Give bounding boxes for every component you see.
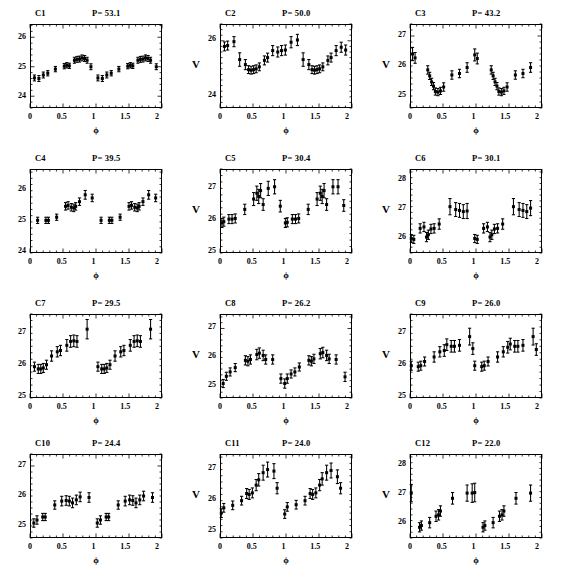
data-point — [248, 489, 251, 499]
data-point — [451, 493, 454, 505]
data-points-c5 — [190, 145, 380, 290]
data-point — [110, 71, 113, 76]
data-point — [266, 53, 269, 62]
data-point — [139, 336, 142, 348]
data-point — [513, 340, 516, 352]
data-point — [307, 60, 310, 70]
data-point — [286, 218, 289, 227]
data-point — [450, 340, 453, 352]
data-point — [101, 76, 104, 82]
data-point — [124, 496, 127, 506]
panel-c12: C12P= 22.0V26272800.511.52ϕ — [380, 430, 570, 579]
data-point — [514, 493, 517, 505]
data-point — [75, 495, 78, 505]
data-point — [445, 339, 448, 351]
data-points-c4 — [0, 145, 190, 290]
data-point — [99, 217, 102, 223]
data-point — [502, 347, 505, 357]
data-point — [227, 215, 230, 224]
data-point — [141, 198, 144, 205]
data-point — [44, 513, 47, 520]
data-point — [516, 340, 519, 352]
data-point — [71, 498, 74, 508]
data-point — [110, 217, 113, 223]
data-point — [342, 200, 345, 212]
panel-c11: C11P= 24.0V25262700.511.52ϕ — [190, 430, 380, 579]
data-point — [521, 203, 524, 217]
data-point — [466, 485, 469, 501]
data-points-c2 — [190, 0, 380, 145]
data-point — [230, 215, 233, 224]
data-point — [458, 69, 461, 77]
data-point — [226, 41, 229, 50]
data-point — [529, 63, 532, 73]
data-point — [496, 224, 499, 233]
data-point — [518, 203, 521, 217]
data-points-c10 — [0, 430, 190, 579]
data-point — [54, 66, 57, 71]
data-point — [35, 516, 38, 524]
data-point — [468, 328, 471, 345]
data-point — [65, 496, 68, 506]
data-point — [37, 76, 40, 82]
data-point — [128, 495, 131, 505]
data-point — [32, 519, 35, 527]
data-point — [482, 224, 485, 233]
data-point — [262, 199, 265, 211]
data-point — [532, 328, 535, 345]
data-point — [496, 352, 499, 362]
data-point — [335, 355, 338, 364]
data-points-c6 — [380, 145, 570, 290]
data-point — [232, 37, 235, 47]
data-point — [438, 219, 441, 229]
data-point — [276, 483, 279, 494]
data-point — [501, 219, 504, 229]
data-point — [325, 199, 328, 211]
data-point — [428, 517, 431, 527]
data-point — [429, 224, 432, 233]
data-point — [326, 56, 329, 65]
data-point — [87, 493, 90, 503]
data-point — [68, 496, 71, 506]
data-point — [134, 498, 137, 508]
data-point — [321, 473, 324, 485]
data-point — [336, 180, 339, 194]
data-point — [303, 496, 306, 505]
data-point — [315, 193, 318, 206]
data-point — [273, 180, 276, 194]
data-point — [78, 198, 81, 205]
data-point — [231, 501, 234, 510]
data-point — [302, 53, 305, 66]
data-point — [55, 214, 58, 220]
data-point — [136, 335, 139, 347]
data-point — [147, 190, 150, 199]
panel-c1: C1P= 53.124252600.511.52ϕ — [0, 0, 190, 145]
data-points-c7 — [0, 290, 190, 430]
data-point — [450, 71, 453, 79]
data-point — [131, 496, 134, 506]
data-point — [155, 64, 158, 70]
data-point — [319, 186, 322, 200]
data-point — [284, 45, 287, 55]
data-point — [60, 496, 63, 506]
data-point — [490, 66, 493, 74]
data-point — [286, 374, 289, 383]
data-point — [458, 340, 461, 352]
data-point — [271, 46, 274, 56]
data-point — [240, 496, 243, 505]
data-point — [223, 42, 226, 51]
data-point — [314, 488, 317, 498]
data-point — [267, 181, 270, 195]
data-point — [311, 489, 314, 499]
data-point — [222, 379, 225, 387]
data-point — [122, 345, 125, 355]
data-point — [107, 513, 110, 520]
data-point — [33, 362, 36, 371]
data-point — [96, 75, 99, 81]
data-point — [36, 217, 39, 223]
data-point — [331, 180, 334, 194]
data-point — [493, 224, 496, 233]
data-point — [142, 491, 145, 501]
data-point — [340, 42, 343, 52]
data-point — [89, 64, 92, 70]
